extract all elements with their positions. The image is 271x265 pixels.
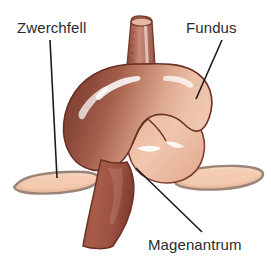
label-fundus: Fundus <box>186 20 237 35</box>
label-zwerchfell: Zwerchfell <box>17 20 86 35</box>
stomach-anatomy-figure: Zwerchfell Fundus Magenantrum <box>0 0 271 265</box>
label-magenantrum: Magenantrum <box>148 237 242 252</box>
leader-line-zwerchfell <box>50 40 57 178</box>
esophagus-lumen <box>131 18 152 26</box>
anatomy-illustration <box>0 0 271 265</box>
